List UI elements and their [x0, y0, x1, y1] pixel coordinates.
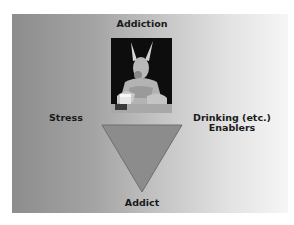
label-addict: Addict	[116, 198, 168, 208]
inverted-triangle	[101, 124, 183, 194]
label-drinking-enablers: Drinking (etc.) Enablers	[192, 113, 272, 134]
label-stress: Stress	[49, 113, 83, 123]
kangaroo-image-icon	[111, 38, 172, 113]
kangaroo-photo	[111, 38, 172, 113]
slide: Addiction Stress Drinking (etc.) En	[12, 14, 288, 213]
title-addiction: Addiction	[110, 19, 174, 29]
label-enablers: Enablers	[192, 123, 272, 133]
